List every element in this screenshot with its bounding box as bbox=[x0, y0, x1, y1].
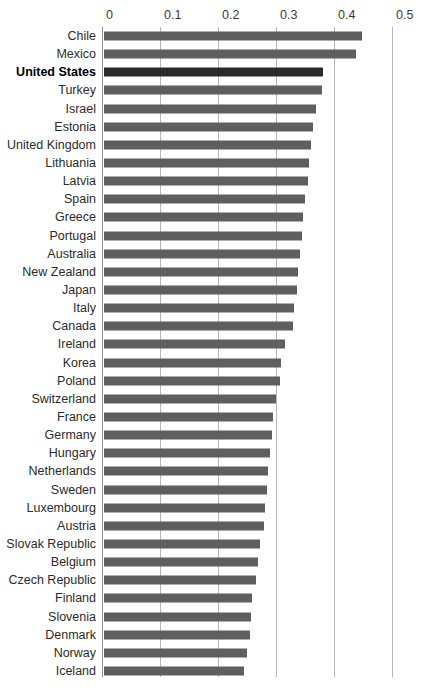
bar bbox=[104, 503, 265, 512]
bar bbox=[104, 104, 316, 113]
bar-row: Iceland bbox=[0, 662, 428, 680]
bar bbox=[104, 467, 268, 476]
bar bbox=[104, 413, 273, 422]
bar-row: Chile bbox=[0, 27, 428, 45]
bar bbox=[104, 195, 305, 204]
bar bbox=[104, 140, 311, 149]
bar-category-label: Switzerland bbox=[31, 392, 96, 406]
x-axis-tick-label: 0.3 bbox=[280, 9, 297, 22]
bar bbox=[104, 267, 298, 276]
bar-row: Netherlands bbox=[0, 462, 428, 480]
bar bbox=[104, 376, 280, 385]
bar-rows: ChileMexicoUnited StatesTurkeyIsraelEsto… bbox=[0, 27, 428, 677]
bar-category-label: Israel bbox=[65, 102, 96, 116]
bar-row: Portugal bbox=[0, 227, 428, 245]
bar-category-label: Ireland bbox=[58, 337, 96, 351]
bar bbox=[104, 431, 272, 440]
chart-caption bbox=[0, 684, 428, 698]
bar bbox=[104, 50, 356, 59]
bar-row: United Kingdom bbox=[0, 136, 428, 154]
bar-category-label: Netherlands bbox=[29, 464, 96, 478]
bar-category-label: Poland bbox=[57, 374, 96, 388]
bar bbox=[104, 485, 267, 494]
bar-row: Finland bbox=[0, 589, 428, 607]
x-axis-tick-label: 0 bbox=[106, 9, 113, 22]
bar-category-label: Slovak Republic bbox=[6, 537, 96, 551]
bar bbox=[104, 394, 276, 403]
bar-category-label: Lithuania bbox=[45, 156, 96, 170]
bar-row: Germany bbox=[0, 426, 428, 444]
bar-row: Japan bbox=[0, 281, 428, 299]
bar-category-label: Mexico bbox=[56, 47, 96, 61]
bar bbox=[104, 322, 293, 331]
bar-category-label: Slovenia bbox=[48, 610, 96, 624]
x-axis-tick-label: 0.4 bbox=[338, 9, 355, 22]
bar bbox=[104, 286, 297, 295]
bar-row: Czech Republic bbox=[0, 571, 428, 589]
bar bbox=[104, 612, 251, 621]
bar bbox=[104, 177, 308, 186]
bar-category-label: Sweden bbox=[51, 483, 96, 497]
x-axis-tick-label: 0.5 bbox=[396, 9, 413, 22]
bar-row: Spain bbox=[0, 190, 428, 208]
bar-row: Mexico bbox=[0, 45, 428, 63]
bar-category-label: Portugal bbox=[49, 229, 96, 243]
bar-category-label: Australia bbox=[47, 247, 96, 261]
bar-category-label: Denmark bbox=[45, 628, 96, 642]
bar-row: United States bbox=[0, 63, 428, 81]
bar-category-label: Iceland bbox=[56, 664, 96, 678]
bar bbox=[104, 521, 264, 530]
bar bbox=[104, 666, 244, 675]
bar-category-label: Greece bbox=[55, 210, 96, 224]
bar bbox=[104, 304, 294, 313]
bar-category-label: Korea bbox=[63, 356, 96, 370]
bar bbox=[104, 231, 302, 240]
bar bbox=[104, 249, 300, 258]
bar-row: Lithuania bbox=[0, 154, 428, 172]
bar-row: Austria bbox=[0, 517, 428, 535]
bar bbox=[104, 630, 250, 639]
bar-row: Israel bbox=[0, 100, 428, 118]
bar bbox=[104, 648, 247, 657]
bar bbox=[104, 576, 256, 585]
bar-row: France bbox=[0, 408, 428, 426]
bar bbox=[104, 213, 303, 222]
bar-row: Canada bbox=[0, 317, 428, 335]
bar-row: Poland bbox=[0, 372, 428, 390]
bar-category-label: Turkey bbox=[58, 83, 96, 97]
bar-row: Slovak Republic bbox=[0, 535, 428, 553]
bar-category-label: Spain bbox=[64, 192, 96, 206]
bar-category-label: Czech Republic bbox=[8, 573, 96, 587]
bar-category-label: Chile bbox=[68, 29, 97, 43]
bar-row: Korea bbox=[0, 354, 428, 372]
bar-category-label: United States bbox=[16, 65, 96, 79]
bar bbox=[104, 159, 309, 168]
bar-row: Ireland bbox=[0, 335, 428, 353]
bar-row: Belgium bbox=[0, 553, 428, 571]
bar-row: Hungary bbox=[0, 444, 428, 462]
bar-category-label: United Kingdom bbox=[7, 138, 96, 152]
bar-category-label: Norway bbox=[54, 646, 96, 660]
x-axis: 00.10.20.30.40.5 bbox=[0, 0, 428, 30]
bar bbox=[104, 340, 285, 349]
bar bbox=[104, 358, 281, 367]
bar-chart: 00.10.20.30.40.5 ChileMexicoUnited State… bbox=[0, 0, 428, 698]
bar-category-label: Estonia bbox=[54, 120, 96, 134]
bar-row: Luxembourg bbox=[0, 499, 428, 517]
bar bbox=[104, 449, 270, 458]
bar bbox=[104, 540, 260, 549]
bar-category-label: Austria bbox=[57, 519, 96, 533]
bar-category-label: Italy bbox=[73, 301, 96, 315]
bar-row: Italy bbox=[0, 299, 428, 317]
bar-row: Greece bbox=[0, 208, 428, 226]
bar-row: New Zealand bbox=[0, 263, 428, 281]
x-axis-tick-label: 0.2 bbox=[222, 9, 239, 22]
bar bbox=[104, 68, 323, 77]
bar-category-label: Latvia bbox=[63, 174, 96, 188]
bar bbox=[104, 558, 258, 567]
bar-category-label: Luxembourg bbox=[27, 501, 97, 515]
bar bbox=[104, 32, 362, 41]
bar-row: Latvia bbox=[0, 172, 428, 190]
bar-category-label: Finland bbox=[55, 591, 96, 605]
bar-category-label: New Zealand bbox=[22, 265, 96, 279]
